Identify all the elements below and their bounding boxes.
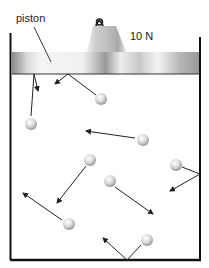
molecule <box>170 159 182 171</box>
molecule <box>25 118 37 130</box>
molecule <box>104 175 116 187</box>
molecule <box>141 234 153 246</box>
piston <box>12 52 199 74</box>
molecule <box>137 134 149 146</box>
gas-piston-diagram <box>0 0 209 268</box>
weight-label: 10 N <box>130 30 153 42</box>
weight-block <box>87 19 126 52</box>
molecule <box>63 218 75 230</box>
molecule <box>84 154 96 166</box>
piston-label: piston <box>16 12 45 24</box>
gas-molecules <box>25 93 182 246</box>
molecule <box>95 93 107 105</box>
